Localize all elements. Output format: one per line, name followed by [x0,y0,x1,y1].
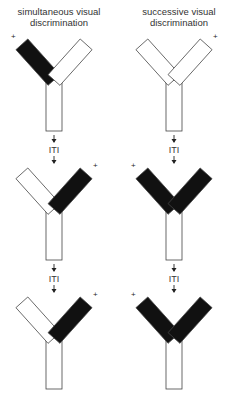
iti-label: ITI [169,145,180,155]
y-maze-diagram: +ITI+ITI++ITI+ITI+ [0,0,236,405]
iti-label: ITI [49,274,60,284]
maze-stem [166,209,182,260]
maze-right-arm [168,39,212,85]
maze-right-arm [168,297,212,343]
maze-stem [46,209,62,260]
iti-arrow: ITI [169,135,180,164]
y-maze-successive-trial-1: + [136,32,218,131]
maze-right-arm [48,168,92,214]
iti-arrow: ITI [49,264,60,293]
y-maze-simultaneous-trial-1: + [11,32,92,131]
maze-stem [46,80,62,131]
maze-stem [166,80,182,131]
maze-right-arm [48,39,92,85]
y-maze-successive-trial-3: + [131,290,212,389]
reward-plus-marker: + [93,161,98,170]
y-maze-simultaneous-trial-2: + [16,161,98,260]
reward-plus-marker: + [11,32,16,41]
maze-right-arm [48,297,92,343]
iti-arrow: ITI [49,135,60,164]
reward-plus-marker: + [213,32,218,41]
reward-plus-marker: + [131,161,136,170]
y-maze-simultaneous-trial-3: + [16,290,98,389]
maze-stem [166,338,182,389]
iti-arrow: ITI [169,264,180,293]
iti-label: ITI [49,145,60,155]
iti-label: ITI [169,274,180,284]
maze-stem [46,338,62,389]
reward-plus-marker: + [93,290,98,299]
reward-plus-marker: + [131,290,136,299]
y-maze-successive-trial-2: + [131,161,212,260]
maze-right-arm [168,168,212,214]
